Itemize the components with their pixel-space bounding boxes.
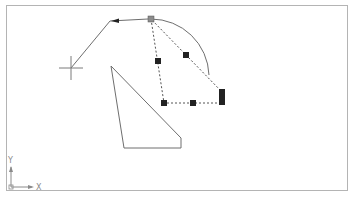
ucs-icon: Y X — [7, 156, 42, 192]
arc-entity — [151, 19, 209, 75]
hot-grip[interactable] — [148, 16, 154, 22]
rubber-band-line — [71, 19, 148, 68]
grip-midpoint-left[interactable] — [155, 58, 161, 64]
polygon-entity[interactable] — [111, 66, 181, 148]
grip-midpoint-bottom[interactable] — [190, 100, 196, 106]
grip-midpoint-diagonal[interactable] — [183, 52, 189, 58]
ucs-y-label: Y — [7, 156, 13, 165]
grip-corner-bottom-left[interactable] — [161, 100, 167, 106]
grip-corner-right-bottom[interactable] — [219, 99, 225, 105]
ucs-x-label: X — [36, 183, 42, 192]
arrowhead-icon — [111, 19, 119, 24]
crosshair-cursor-icon — [59, 56, 83, 80]
drawing-canvas[interactable]: Y X — [0, 0, 358, 197]
